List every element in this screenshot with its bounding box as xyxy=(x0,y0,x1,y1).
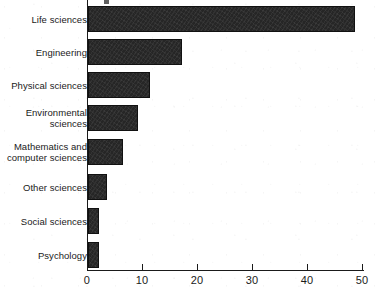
category-label: Engineering xyxy=(0,47,87,58)
chart-row: Life sciences xyxy=(0,6,381,32)
chart-row: Engineering xyxy=(0,39,381,65)
chart-row: Social sciences xyxy=(0,208,381,234)
bar-chart: Life sciences Engineering Physical scien… xyxy=(0,0,381,292)
x-axis-tick-label: 0 xyxy=(84,274,90,286)
x-axis-tick xyxy=(252,264,253,271)
bar-environmental-sciences xyxy=(88,105,138,131)
chart-row: Physical sciences xyxy=(0,72,381,98)
bar-physical-sciences xyxy=(88,72,150,98)
x-axis-tick-label: 20 xyxy=(191,274,204,286)
x-axis-line xyxy=(87,270,364,271)
x-axis-tick-label: 50 xyxy=(356,274,369,286)
bar-other-sciences xyxy=(88,174,107,200)
bar-engineering xyxy=(88,39,182,65)
chart-row: Psychology xyxy=(0,242,381,268)
category-label: Physical sciences xyxy=(0,80,87,91)
chart-row: Environmental sciences xyxy=(0,105,381,131)
category-label: Social sciences xyxy=(0,216,87,227)
x-axis-tick xyxy=(362,264,363,271)
y-axis-line xyxy=(87,0,88,271)
category-label: Mathematics and computer sciences xyxy=(0,141,87,163)
x-axis-tick-label: 10 xyxy=(136,274,149,286)
plot-area: Life sciences Engineering Physical scien… xyxy=(0,0,381,292)
category-label: Psychology xyxy=(0,250,87,261)
bar-social-sciences xyxy=(88,208,99,234)
x-axis-tick xyxy=(142,264,143,271)
category-label: Life sciences xyxy=(0,14,87,25)
category-label: Environmental sciences xyxy=(0,107,87,129)
x-axis-tick-label: 40 xyxy=(301,274,314,286)
chart-row: Mathematics and computer sciences xyxy=(0,139,381,165)
x-axis-tick xyxy=(197,264,198,271)
x-axis-tick xyxy=(87,264,88,271)
bar-psychology xyxy=(88,242,99,268)
category-label: Other sciences xyxy=(0,182,87,193)
x-axis-tick-label: 30 xyxy=(246,274,259,286)
chart-row: Other sciences xyxy=(0,174,381,200)
x-axis-tick xyxy=(307,264,308,271)
bar-life-sciences xyxy=(88,6,355,32)
bar-mathematics-and-computer-sciences xyxy=(88,139,123,165)
